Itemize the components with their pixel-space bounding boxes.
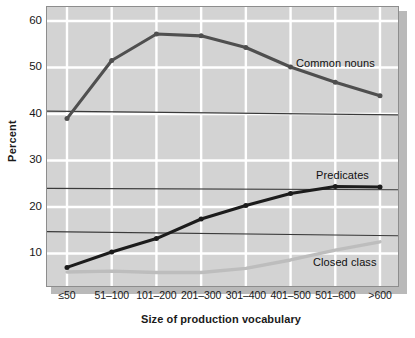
chart-canvas [47,7,398,286]
middle-reference-line [47,188,398,189]
data-point [65,265,70,270]
data-point [199,217,204,222]
x-axis-tick-label: ≤50 [58,289,75,301]
x-axis-tick-label: 51–100 [94,289,128,301]
data-point [333,80,338,85]
y-axis-tick-label: 40 [12,108,42,120]
series-annotation: Closed class [313,256,377,268]
data-point [288,191,293,196]
plot-area [46,6,399,287]
series-annotation: Predicates [316,169,369,181]
data-point [288,64,293,69]
data-point [243,203,248,208]
y-axis-tick-label: 20 [12,201,42,213]
x-axis-tick-label: 401–500 [270,289,310,301]
y-axis-tick-labels: 102030405060 [12,0,42,338]
x-axis-tick-labels: ≤5051–100101–200201–300301–400401–500501… [46,289,398,309]
data-point [199,33,204,38]
x-axis-tick-label: 501–600 [315,289,355,301]
x-axis-title: Size of production vocabulary [46,313,396,325]
data-point [109,250,114,255]
y-axis-tick-label: 50 [12,62,42,74]
data-point [378,184,383,189]
y-axis-tick-label: 30 [12,155,42,167]
data-point [154,236,159,241]
x-axis-tick-label: 301–400 [226,289,266,301]
y-axis-tick-label: 10 [12,248,42,260]
data-point [154,31,159,36]
lower-reference-line [47,232,398,236]
chart-figure: Percent 102030405060 ≤5051–100101–200201… [0,0,415,338]
data-point [378,93,383,98]
x-axis-tick-label: 101–200 [136,289,176,301]
x-axis-tick-label: 201–300 [181,289,221,301]
data-point [333,184,338,189]
x-axis-tick-label: >600 [368,289,391,301]
series-line-common-nouns [67,34,380,119]
series-annotation: Common nouns [296,57,375,69]
data-point [109,58,114,63]
y-axis-tick-label: 60 [12,15,42,27]
data-point [65,116,70,121]
data-point [243,45,248,50]
